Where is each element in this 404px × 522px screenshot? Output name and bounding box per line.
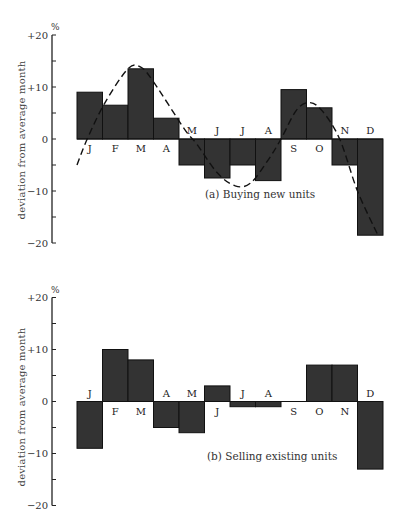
bar-10 xyxy=(332,365,358,401)
y-tick-label: 0 xyxy=(42,134,48,145)
bar-10 xyxy=(332,139,358,165)
month-label: O xyxy=(315,143,323,154)
month-label: M xyxy=(187,388,197,399)
bar-3 xyxy=(154,118,180,139)
y-axis-label: deviation from average month xyxy=(16,60,27,219)
month-label: A xyxy=(264,388,273,399)
month-label: M xyxy=(187,125,197,136)
month-label: M xyxy=(136,406,146,417)
month-label: J xyxy=(87,388,92,399)
month-label: M xyxy=(136,143,146,154)
bar-4 xyxy=(179,402,205,433)
chart-caption: (a) Buying new units xyxy=(205,188,315,200)
month-label: J xyxy=(214,125,219,136)
y-tick-label: +10 xyxy=(27,344,48,355)
month-label: J xyxy=(87,143,92,154)
month-label: D xyxy=(366,388,374,399)
y-unit-label: % xyxy=(51,22,60,32)
y-tick-label: +10 xyxy=(27,82,48,93)
bar-7 xyxy=(256,402,282,407)
bar-5 xyxy=(205,386,231,402)
chart-buying-new-units: +20+100−10−20%deviation from average mon… xyxy=(16,22,383,249)
bar-0 xyxy=(77,402,103,449)
y-tick-label: −10 xyxy=(27,186,48,197)
chart-caption: (b) Selling existing units xyxy=(207,450,337,462)
month-label: O xyxy=(315,406,323,417)
month-label: N xyxy=(340,406,349,417)
month-label: A xyxy=(264,125,273,136)
month-label: F xyxy=(112,406,119,417)
bar-6 xyxy=(230,402,256,407)
bar-11 xyxy=(358,402,384,470)
month-label: N xyxy=(340,125,349,136)
month-label: A xyxy=(162,388,171,399)
bar-9 xyxy=(307,108,333,139)
y-axis-label: deviation from average month xyxy=(16,327,27,486)
y-unit-label: % xyxy=(51,285,60,295)
y-tick-label: −20 xyxy=(27,500,48,511)
bar-4 xyxy=(179,139,205,165)
month-label: S xyxy=(290,406,297,417)
bar-2 xyxy=(128,360,154,402)
bar-6 xyxy=(230,139,256,165)
month-label: D xyxy=(366,125,374,136)
month-label: J xyxy=(240,125,245,136)
bar-1 xyxy=(103,350,129,402)
month-label: A xyxy=(162,143,171,154)
figure-canvas: +20+100−10−20%deviation from average mon… xyxy=(0,0,404,522)
month-label: F xyxy=(112,143,119,154)
bar-9 xyxy=(307,365,333,401)
month-label: S xyxy=(290,143,297,154)
chart-selling-existing-units: +20+100−10−20%deviation from average mon… xyxy=(16,285,383,512)
month-label: J xyxy=(214,406,219,417)
bar-1 xyxy=(103,105,129,139)
y-tick-label: 0 xyxy=(42,396,48,407)
y-tick-label: −20 xyxy=(27,238,48,249)
y-tick-label: +20 xyxy=(27,292,48,303)
y-tick-label: −10 xyxy=(27,448,48,459)
month-label: J xyxy=(240,388,245,399)
y-tick-label: +20 xyxy=(27,30,48,41)
bar-3 xyxy=(154,402,180,428)
bar-2 xyxy=(128,69,154,139)
